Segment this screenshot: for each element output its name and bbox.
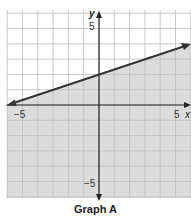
y-tick-neg5: −5 [84,178,96,189]
y-axis-arrow-up-icon [96,11,102,18]
x-axis-label: x [184,109,191,120]
x-tick-5: 5 [174,109,180,120]
y-axis-label: y [88,8,95,19]
y-tick-5: 5 [89,21,95,32]
x-tick-neg5: −5 [14,109,26,120]
coordinate-graph: y 5 x 5 −5 −5 [0,0,191,217]
graph-caption: Graph A [0,203,191,215]
